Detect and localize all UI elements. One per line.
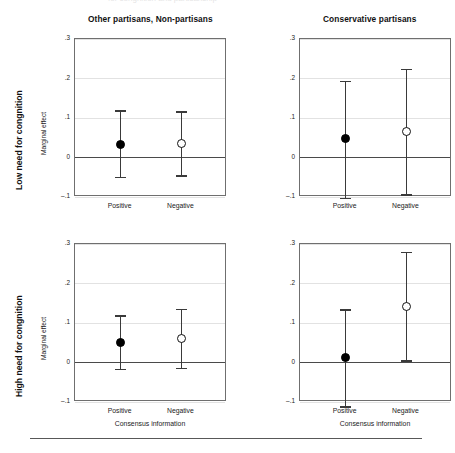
gridline (75, 244, 225, 245)
error-bar-cap-upper (115, 110, 126, 111)
x-axis-title: Consensus information (60, 420, 240, 427)
y-tick-label: .3 (277, 34, 295, 41)
y-tick-label: –.1 (52, 192, 70, 199)
y-axis-title-top: Marginal effect (40, 112, 47, 155)
x-tick-label: Negative (375, 407, 435, 414)
error-bar-cap-lower (176, 175, 187, 176)
gridline (75, 39, 225, 40)
error-bar-cap-upper (176, 111, 187, 112)
y-tick-label: .3 (277, 239, 295, 246)
y-tick-label: .2 (52, 74, 70, 81)
gridline (75, 323, 225, 324)
y-tick-label: .2 (277, 279, 295, 286)
point-marker-filled (341, 134, 350, 143)
y-axis-title-bottom: Marginal effect (40, 317, 47, 360)
error-bar-cap-upper (176, 309, 187, 310)
gridline (75, 78, 225, 79)
plot-panel (74, 38, 226, 196)
error-bar-cap-lower (401, 194, 412, 195)
y-tick-label: 0 (277, 358, 295, 365)
gridline (75, 197, 225, 198)
error-bar-cap-upper (401, 69, 412, 70)
y-tick-label: .3 (52, 239, 70, 246)
y-tick-label: .3 (52, 34, 70, 41)
gridline (300, 323, 450, 324)
y-tick-label: 0 (52, 153, 70, 160)
plot-panel (299, 38, 451, 196)
point-marker-filled (341, 353, 350, 362)
y-tick-label: .1 (52, 113, 70, 120)
gridline (300, 244, 450, 245)
gridline (300, 78, 450, 79)
y-tick-label: .1 (277, 113, 295, 120)
error-bar-cap-lower (115, 177, 126, 178)
column-title-left: Other partisans, Non-partisans (88, 14, 213, 24)
y-tick-label: .1 (277, 318, 295, 325)
zero-reference-line (75, 362, 225, 363)
bottom-divider-rule (30, 438, 422, 439)
gridline (300, 39, 450, 40)
x-axis-title: Consensus information (285, 420, 455, 427)
gridline (75, 402, 225, 403)
gridline (300, 118, 450, 119)
cut-off-caption-text: for congnition and partisanship (108, 0, 408, 2)
y-tick-label: –.1 (277, 397, 295, 404)
plot-panel (299, 243, 451, 401)
error-bar-cap-upper (401, 252, 412, 253)
gridline (300, 283, 450, 284)
error-bar-cap-lower (176, 368, 187, 369)
point-marker-open (177, 334, 186, 343)
column-title-right: Conservative partisans (323, 14, 417, 24)
y-tick-label: .1 (52, 318, 70, 325)
error-bar-cap-lower (115, 369, 126, 370)
row-label-high-nfc: High need for congnition (14, 295, 24, 397)
cut-off-caption-strip: for congnition and partisanship (108, 0, 408, 7)
error-bar-cap-lower (340, 198, 351, 199)
point-marker-open (402, 302, 411, 311)
plot-panel (74, 243, 226, 401)
y-tick-label: .2 (52, 279, 70, 286)
zero-reference-line (300, 157, 450, 158)
row-label-low-nfc: Low need for congnition (14, 90, 24, 190)
point-marker-open (177, 139, 186, 148)
error-bar-cap-upper (115, 315, 126, 316)
x-tick-label: Positive (315, 407, 375, 414)
y-tick-label: 0 (52, 358, 70, 365)
error-bar-cap-lower (401, 360, 412, 361)
x-tick-label: Positive (90, 202, 150, 209)
gridline (75, 283, 225, 284)
x-tick-label: Positive (315, 202, 375, 209)
zero-reference-line (300, 362, 450, 363)
y-tick-label: –.1 (277, 192, 295, 199)
y-tick-label: .2 (277, 74, 295, 81)
x-tick-label: Negative (375, 202, 435, 209)
point-marker-filled (116, 338, 125, 347)
point-marker-open (402, 127, 411, 136)
zero-reference-line (75, 157, 225, 158)
x-tick-label: Negative (150, 202, 210, 209)
y-tick-label: 0 (277, 153, 295, 160)
x-tick-label: Positive (90, 407, 150, 414)
y-tick-label: –.1 (52, 397, 70, 404)
gridline (75, 118, 225, 119)
error-bar-cap-upper (340, 309, 351, 310)
x-tick-label: Negative (150, 407, 210, 414)
error-bar-cap-upper (340, 81, 351, 82)
gridline (300, 402, 450, 403)
gridline (300, 197, 450, 198)
point-marker-filled (116, 140, 125, 149)
